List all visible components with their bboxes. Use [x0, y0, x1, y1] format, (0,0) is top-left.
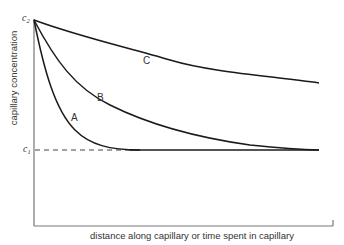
curve-c [34, 20, 319, 83]
c1-label: c1 [23, 143, 31, 155]
curve-b [34, 20, 319, 150]
c2-label: c2 [22, 12, 30, 24]
curve-b-label: B [97, 92, 104, 103]
curve-a [34, 20, 140, 150]
curve-c-label: C [143, 55, 150, 66]
x-axis-label: distance along capillary or time spent i… [90, 230, 294, 241]
concentration-diagram: C B A c2 c1 capillary concentration dist… [0, 0, 344, 245]
curve-a-label: A [71, 112, 78, 123]
y-axis-label: capillary concentration [8, 31, 19, 126]
